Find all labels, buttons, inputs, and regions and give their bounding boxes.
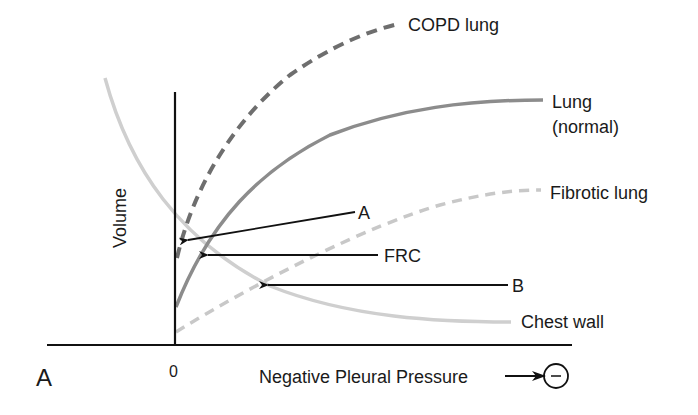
label-copd-lung: COPD lung <box>408 15 499 35</box>
label-frc: FRC <box>384 246 421 266</box>
label-chest-wall: Chest wall <box>521 312 604 332</box>
label-fibrotic-lung: Fibrotic lung <box>550 183 648 203</box>
lung-chest-wall-compliance-diagram: COPD lung Lung (normal) Fibrotic lung Ch… <box>0 0 698 415</box>
label-lung-normal-line1: Lung <box>552 92 592 112</box>
label-a: A <box>358 203 370 223</box>
x-axis-label: Negative Pleural Pressure <box>259 367 468 387</box>
x-origin-label: 0 <box>169 363 178 380</box>
y-axis-label: Volume <box>110 188 130 248</box>
label-b: B <box>512 276 524 296</box>
label-lung-normal-line2: (normal) <box>552 117 619 137</box>
panel-label: A <box>36 364 52 391</box>
arrow-a <box>188 212 355 240</box>
